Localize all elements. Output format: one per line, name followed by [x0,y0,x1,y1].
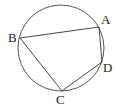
label-c: C [56,92,65,105]
circumcircle [18,5,104,91]
segment-dc [62,62,102,91]
geometry-diagram: A B C D [0,0,117,105]
segment-cb [20,38,62,91]
label-d: D [103,60,112,75]
label-b: B [8,30,17,45]
label-a: A [101,12,111,27]
segment-ba [20,27,99,38]
